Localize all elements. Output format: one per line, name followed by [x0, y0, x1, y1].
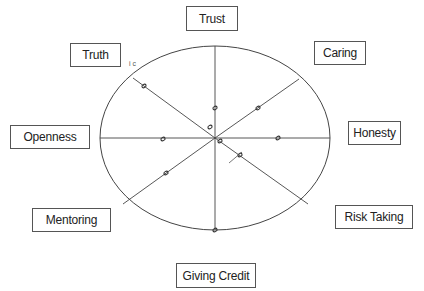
handwritten-annotation: i c [129, 60, 136, 67]
label-caring: Caring [314, 41, 366, 65]
rating-mark-center-a [207, 125, 212, 130]
label-risk-taking: Risk Taking [335, 205, 413, 229]
label-truth: Truth [70, 43, 121, 67]
pen-tick-mark [229, 152, 242, 163]
rating-mark-openness [160, 137, 165, 142]
label-honesty: Honesty [348, 121, 401, 145]
label-trust: Trust [186, 6, 238, 31]
spoke-caring [215, 79, 299, 138]
label-mentoring: Mentoring [32, 208, 111, 232]
label-openness: Openness [10, 125, 90, 149]
wheel-group [100, 46, 330, 232]
spoke-mentoring [123, 138, 215, 204]
spoke-risk-taking [215, 138, 308, 204]
label-giving-credit: Giving Credit [176, 263, 256, 288]
